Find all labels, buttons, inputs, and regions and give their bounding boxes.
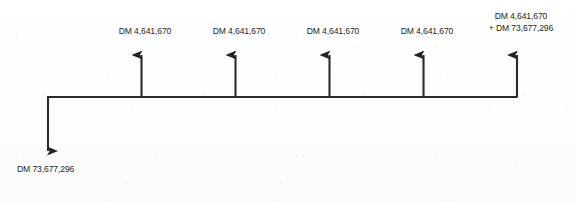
inflow-label-period-5-line-2: + DM 73,677,296 [489,23,553,35]
inflow-label-period-2-line-1: DM 4,641,670 [213,26,266,38]
inflow-label-period-1-line-1: DM 4,641,670 [119,26,172,38]
cash-flow-diagram: DM 4,641,670 DM 4,641,670 DM 4,641,670 D… [0,0,575,202]
inflow-label-period-3: DM 4,641,670 [307,26,360,38]
inflow-label-period-4: DM 4,641,670 [401,26,454,38]
inflow-label-period-2: DM 4,641,670 [213,26,266,38]
inflow-label-period-1: DM 4,641,670 [119,26,172,38]
outflow-label-period-0: DM 73,677,296 [17,164,74,176]
inflow-label-period-3-line-1: DM 4,641,670 [307,26,360,38]
inflow-label-period-4-line-1: DM 4,641,670 [401,26,454,38]
inflow-label-period-5: DM 4,641,670 + DM 73,677,296 [489,11,553,34]
inflow-label-period-5-line-1: DM 4,641,670 [489,11,553,23]
outflow-label-period-0-line-1: DM 73,677,296 [17,164,74,176]
